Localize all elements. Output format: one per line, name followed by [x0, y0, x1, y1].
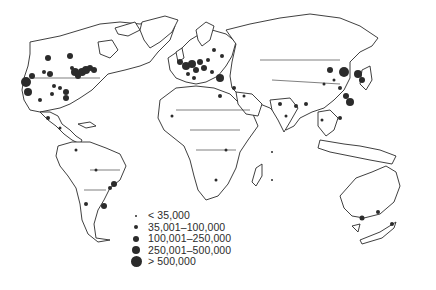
indonesia	[318, 140, 396, 164]
legend-label: 250,001–500,000	[148, 245, 231, 256]
caribbean	[78, 122, 96, 128]
legend-label: 35,001–100,000	[148, 222, 225, 233]
dot-icon	[130, 246, 142, 254]
legend-label: < 35,000	[148, 210, 190, 221]
dot-icon	[130, 215, 142, 217]
legend-label: 100,001–250,000	[148, 233, 231, 244]
legend-label: > 500,000	[148, 256, 196, 267]
southeast-asia	[318, 110, 338, 136]
tasmania	[352, 224, 360, 232]
legend-item-100001-250000: 100,001–250,000	[130, 233, 231, 245]
india	[270, 98, 298, 132]
dot-icon	[130, 236, 142, 242]
south-america	[56, 142, 126, 242]
dot-icon	[130, 256, 142, 267]
legend-item-gt-500000: > 500,000	[130, 256, 231, 268]
madagascar	[252, 164, 262, 186]
map-legend: < 35,000 35,001–100,000 100,001–250,000 …	[130, 210, 231, 268]
australia	[340, 166, 400, 218]
legend-item-lt-35000: < 35,000	[130, 210, 231, 222]
dot-icon	[130, 225, 142, 229]
